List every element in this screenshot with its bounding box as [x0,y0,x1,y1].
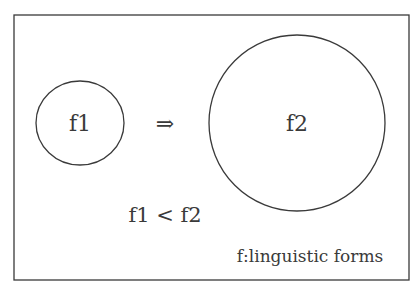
label-f1: f1 [69,111,91,136]
implies-arrow-icon: ⇒ [156,111,174,136]
label-f2: f2 [286,111,308,136]
diagram-frame [14,15,409,280]
relation-text: f1 < f2 [128,203,201,227]
diagram-canvas: f1 ⇒ f2 f1 < f2 f:linguistic forms [0,0,417,289]
legend-text: f:linguistic forms [237,246,384,266]
